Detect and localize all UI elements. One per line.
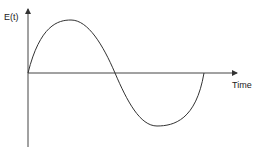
x-axis-label: Time xyxy=(232,80,252,90)
y-axis-label: E(t) xyxy=(4,12,19,22)
sine-wave-diagram xyxy=(0,0,259,151)
